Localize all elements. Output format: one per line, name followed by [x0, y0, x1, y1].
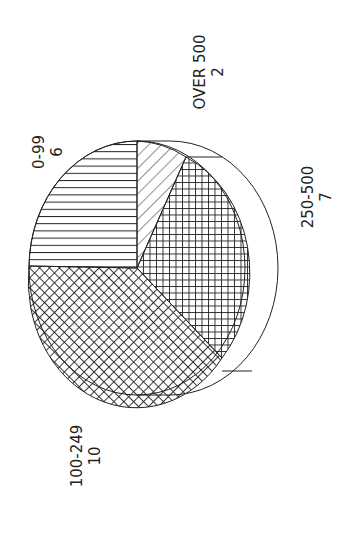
label-250-500-value: 7 [317, 192, 335, 202]
pie-chart-svg: 0-99 6 OVER 500 2 250-500 7 100-249 10 [0, 0, 343, 547]
label-0-99-value: 6 [48, 147, 66, 157]
slice-label-0-99: 0-99 6 [30, 135, 66, 169]
label-100-249-value: 10 [86, 446, 104, 465]
label-0-99-name: 0-99 [30, 135, 48, 169]
pie-chart: 0-99 6 OVER 500 2 250-500 7 100-249 10 [0, 0, 343, 547]
label-100-249-name: 100-249 [68, 425, 86, 488]
label-over-500-value: 2 [209, 67, 227, 77]
slice-label-100-249: 100-249 10 [68, 425, 104, 488]
label-over-500-name: OVER 500 [191, 34, 209, 109]
slice-label-250-500: 250-500 7 [299, 166, 335, 229]
slice-label-over-500: OVER 500 2 [191, 34, 227, 109]
label-250-500-name: 250-500 [299, 166, 317, 229]
